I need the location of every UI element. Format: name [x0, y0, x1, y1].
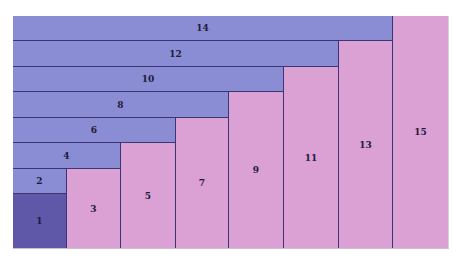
- column-label: 15: [414, 127, 427, 137]
- bar-6: 6: [13, 118, 176, 143]
- bar-label: 14: [196, 23, 209, 33]
- column-9: 9: [229, 92, 284, 248]
- bar-8: 8: [13, 92, 229, 118]
- bar-12: 12: [13, 41, 339, 67]
- column-label: 5: [145, 191, 151, 201]
- bar-label: 4: [63, 151, 69, 161]
- bar-label: 12: [169, 49, 182, 59]
- bar-label: 6: [91, 125, 97, 135]
- column-3: 3: [67, 169, 121, 248]
- bar-10: 10: [13, 67, 284, 92]
- square-label: 1: [36, 216, 42, 226]
- unit-square-1: 1: [13, 194, 67, 248]
- column-label: 13: [359, 140, 372, 150]
- bar-4: 4: [13, 143, 121, 169]
- column-7: 7: [176, 118, 229, 248]
- column-label: 11: [305, 153, 318, 163]
- bar-2: 2: [13, 169, 67, 194]
- column-11: 11: [284, 67, 339, 248]
- column-5: 5: [121, 143, 176, 248]
- odd-even-sum-diagram: 14 12 10 8 6 4 2 1 3 5 7 9 11 13 15: [13, 16, 449, 249]
- bar-label: 2: [36, 176, 42, 186]
- bar-14: 14: [13, 16, 393, 41]
- bar-label: 8: [117, 100, 123, 110]
- column-15: 15: [393, 16, 448, 248]
- column-label: 9: [253, 165, 259, 175]
- column-label: 3: [90, 204, 96, 214]
- bar-label: 10: [142, 74, 155, 84]
- column-label: 7: [199, 178, 205, 188]
- column-13: 13: [339, 41, 393, 248]
